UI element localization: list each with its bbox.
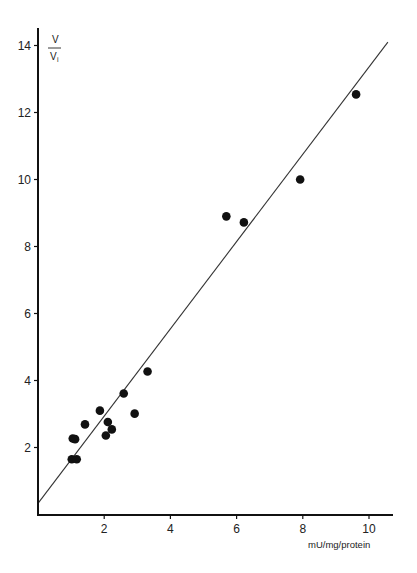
x-tick-label: 4: [167, 522, 174, 536]
data-point: [352, 90, 361, 99]
data-point: [240, 218, 249, 227]
y-tick-label: 8: [24, 240, 31, 254]
regression-line: [38, 42, 388, 503]
data-point: [119, 389, 128, 398]
x-tick-label: 2: [101, 522, 108, 536]
data-point: [71, 435, 80, 444]
data-point: [296, 175, 305, 184]
data-point: [104, 418, 113, 427]
data-point: [81, 420, 90, 429]
y-tick-label: 10: [18, 173, 32, 187]
y-label-numerator: V: [52, 34, 59, 45]
data-point: [72, 455, 81, 464]
y-axis-label: V V i: [48, 34, 61, 63]
y-tick-label: 6: [24, 307, 31, 321]
y-tick-label: 2: [24, 441, 31, 455]
data-point: [130, 409, 139, 418]
data-point: [96, 406, 105, 415]
scatter-chart: 2468101214 246810 V V i mU/mg/protein: [0, 0, 417, 573]
fit-line: [38, 42, 388, 503]
y-label-denominator: V: [50, 51, 57, 62]
data-point: [108, 425, 117, 434]
data-point: [222, 212, 231, 221]
x-tick-label: 6: [233, 522, 240, 536]
y-tick-label: 4: [24, 374, 31, 388]
x-tick-label: 8: [299, 522, 306, 536]
y-tick-label: 14: [18, 39, 32, 53]
y-ticks: 2468101214: [18, 39, 38, 455]
data-point: [143, 367, 152, 376]
x-axis-label: mU/mg/protein: [308, 539, 370, 550]
axes: [37, 28, 393, 515]
x-ticks: 246810: [101, 515, 376, 536]
y-label-subscript: i: [57, 56, 59, 63]
x-tick-label: 10: [362, 522, 376, 536]
y-tick-label: 12: [18, 106, 32, 120]
